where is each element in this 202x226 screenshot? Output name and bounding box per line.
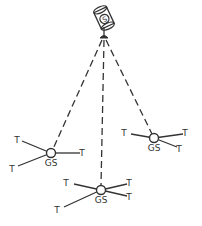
terminal-label: T [8, 164, 15, 174]
ground-station-left: TTTGS [8, 135, 85, 174]
terminal-label: T [181, 128, 188, 138]
ground-station-icon [97, 186, 106, 195]
ground-station-icon [150, 134, 159, 143]
terminal-label: T [175, 144, 182, 154]
antenna-dish-icon [100, 36, 108, 39]
satellite: S [93, 4, 116, 38]
terminal-label: T [125, 178, 132, 188]
terminal-label: T [62, 178, 69, 188]
terminal-label: T [78, 148, 85, 158]
ground-station-right: TTTGS [120, 128, 188, 154]
terminal-label: T [53, 205, 60, 215]
uplink-bottom [101, 40, 104, 186]
uplink-right [106, 40, 152, 134]
terminal-label: T [120, 128, 127, 138]
terminal-label: T [125, 192, 132, 202]
uplinks [53, 40, 152, 186]
ground-station-bottom: TTTTGS [53, 178, 132, 215]
ground-station-label: GS [45, 158, 58, 168]
ground-station-icon [47, 149, 56, 158]
ground-station-label: GS [148, 143, 161, 153]
terminal-label: T [13, 135, 20, 145]
uplink-left [53, 40, 102, 149]
satellite-network-diagram: S TTTGSTTTGSTTTTGS [0, 0, 202, 226]
ground-station-label: GS [95, 195, 108, 205]
